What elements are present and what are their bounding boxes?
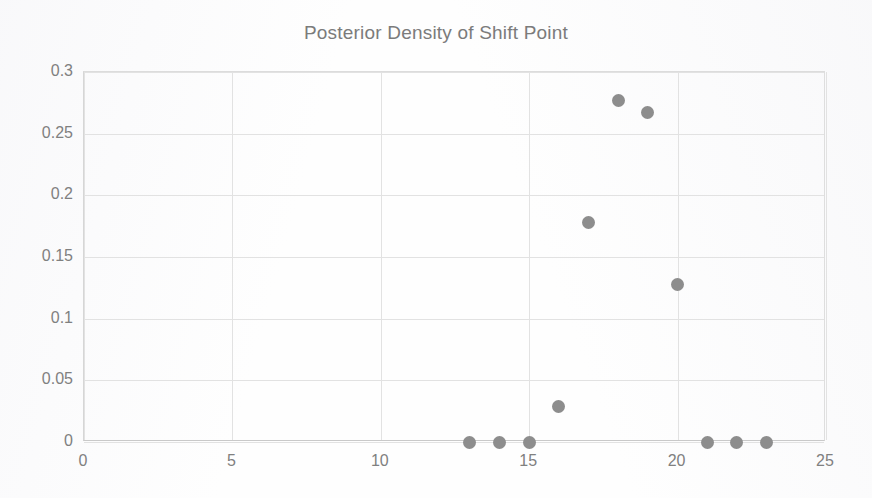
gridline-horizontal [84,72,824,73]
plot-area [83,71,825,441]
y-axis-tick-label: 0.2 [3,185,73,203]
gridline-horizontal [84,195,824,196]
data-point [582,216,595,229]
y-axis-tick-label: 0.1 [3,309,73,327]
data-point [612,94,625,107]
gridline-vertical [381,72,382,440]
data-point [701,436,714,449]
data-point [463,436,476,449]
data-point [730,436,743,449]
data-point [493,436,506,449]
y-axis-tick-label: 0.25 [3,124,73,142]
y-axis-tick-label: 0.05 [3,370,73,388]
y-axis-tick-label: 0 [3,432,73,450]
x-axis-tick-label: 15 [498,452,558,470]
data-point [760,436,773,449]
y-axis-tick-label: 0.15 [3,247,73,265]
gridline-horizontal [84,134,824,135]
x-axis-tick-label: 10 [350,452,410,470]
gridline-vertical [84,72,85,440]
y-axis-tick-label: 0.3 [3,62,73,80]
gridline-horizontal [84,257,824,258]
data-point [671,278,684,291]
gridline-vertical [232,72,233,440]
x-axis-tick-label: 25 [795,452,855,470]
gridline-horizontal [84,319,824,320]
gridline-vertical [826,72,827,440]
gridline-vertical [529,72,530,440]
data-point [552,400,565,413]
x-axis-tick-label: 5 [201,452,261,470]
gridline-vertical [678,72,679,440]
x-axis-tick-labels: 0510152025 [0,452,872,480]
x-axis-tick-label: 0 [53,452,113,470]
x-axis-tick-label: 20 [647,452,707,470]
data-point [523,436,536,449]
chart-title: Posterior Density of Shift Point [0,22,872,44]
y-axis-tick-labels: 00.050.10.150.20.250.3 [0,0,73,498]
gridline-horizontal [84,380,824,381]
data-point [641,106,654,119]
scatter-chart-figure: Posterior Density of Shift Point 00.050.… [0,0,872,498]
